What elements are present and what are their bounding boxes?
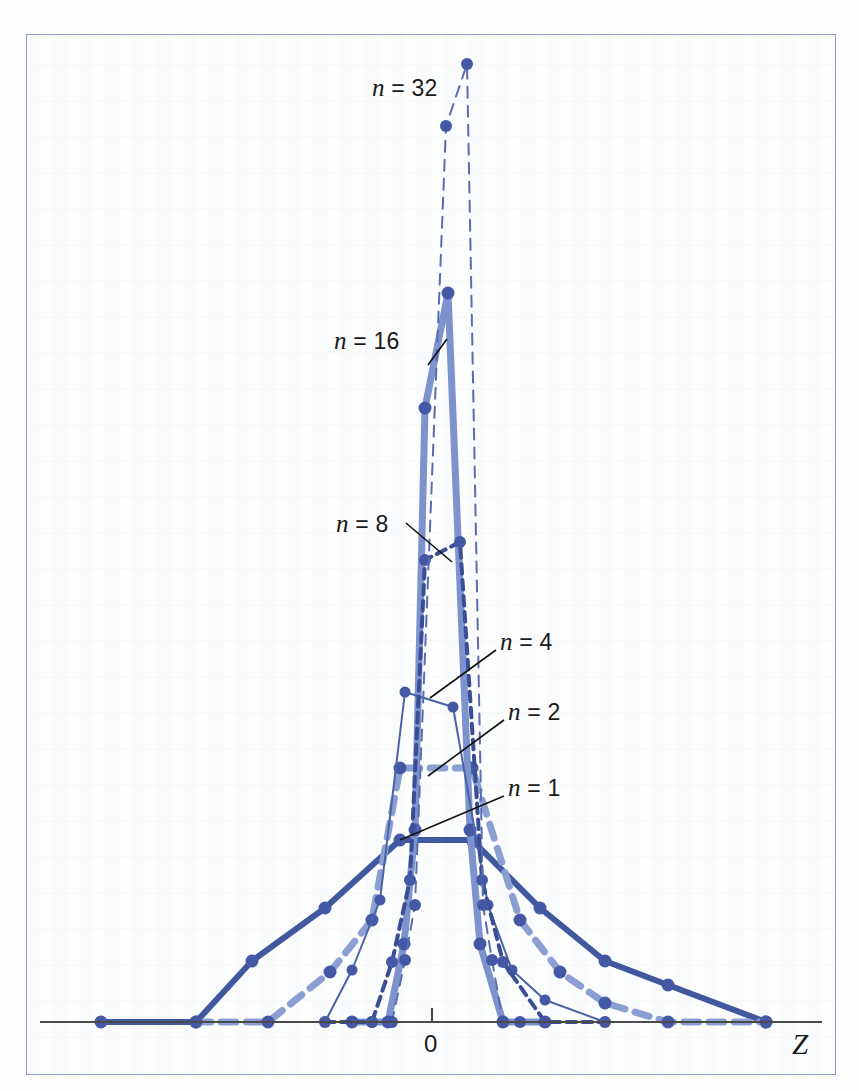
data-point — [454, 536, 466, 548]
data-point — [324, 966, 337, 979]
series-line — [101, 840, 766, 1022]
label-n-8: n = 8 — [336, 510, 389, 538]
data-point — [400, 687, 411, 698]
data-point — [477, 899, 489, 911]
data-point — [461, 58, 473, 70]
italic-n: n — [334, 327, 347, 354]
axis-zero-label: 0 — [424, 1030, 437, 1058]
label-value: = 4 — [513, 629, 553, 655]
series-n-32 — [366, 58, 526, 1028]
series-layer — [95, 58, 773, 1029]
data-point — [442, 287, 455, 300]
label-n-4: n = 4 — [500, 628, 553, 656]
data-point — [246, 955, 259, 968]
label-n-16: n = 16 — [334, 327, 400, 355]
label-n-2: n = 2 — [508, 698, 561, 726]
data-point — [448, 702, 459, 713]
label-value: = 2 — [521, 699, 561, 725]
label-value: = 8 — [349, 511, 389, 537]
label-n-1: n = 1 — [508, 774, 561, 802]
italic-n: n — [508, 698, 521, 725]
data-point — [440, 120, 452, 132]
data-point — [386, 956, 398, 968]
axis-variable-label: Z — [792, 1028, 808, 1061]
data-point — [404, 874, 416, 886]
label-value: = 1 — [521, 775, 561, 801]
data-point — [534, 902, 547, 915]
series-line — [372, 64, 520, 1022]
data-point — [599, 997, 612, 1010]
figure-page: n = 32n = 16n = 8n = 4n = 2n = 1 0 Z — [0, 0, 859, 1091]
data-point — [375, 895, 386, 906]
italic-n: n — [336, 510, 349, 537]
italic-n: n — [500, 628, 513, 655]
data-point — [554, 966, 567, 979]
label-n-32: n = 32 — [372, 74, 438, 102]
data-point — [399, 954, 411, 966]
data-point — [599, 955, 612, 968]
series-n-1 — [95, 834, 773, 1029]
data-point — [514, 914, 527, 927]
italic-n: n — [372, 74, 385, 101]
data-point — [474, 938, 487, 951]
label-value: = 16 — [347, 328, 400, 354]
data-point — [662, 979, 675, 992]
data-point — [409, 899, 421, 911]
sampling-distribution-chart — [0, 0, 859, 1091]
italic-n: n — [508, 774, 521, 801]
data-point — [347, 965, 358, 976]
data-point — [419, 402, 432, 415]
data-point — [497, 956, 509, 968]
label-value: = 32 — [385, 75, 438, 101]
data-point — [486, 954, 498, 966]
data-point — [319, 902, 332, 915]
data-point — [540, 995, 551, 1006]
